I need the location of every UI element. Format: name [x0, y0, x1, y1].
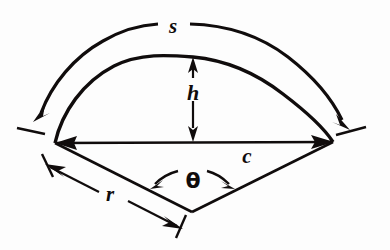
chord-line: [57, 142, 332, 143]
angle-arc-left: [155, 171, 178, 184]
outer-arc-right-tick: [336, 127, 366, 135]
label-chord-c: c: [242, 144, 252, 168]
radius-left: [55, 143, 192, 212]
angle-arc-right: [207, 171, 229, 184]
outer-arc-left-segment: [41, 24, 158, 113]
outer-arc-left-tick: [17, 128, 45, 134]
figure-root: s c h: [0, 0, 390, 250]
height-lower-arrowhead: [188, 126, 198, 142]
radius-right: [192, 142, 333, 212]
label-height-h: h: [187, 80, 199, 105]
chord-c: [55, 135, 334, 150]
label-arc-length-s: s: [168, 14, 177, 38]
circular-segment-diagram: s c h: [0, 0, 390, 250]
label-radius-r: r: [106, 182, 115, 206]
radius-dim-outer-arrowhead: [45, 164, 66, 177]
outer-arc-right-segment: [190, 24, 342, 120]
label-angle-theta: θ: [185, 168, 200, 193]
